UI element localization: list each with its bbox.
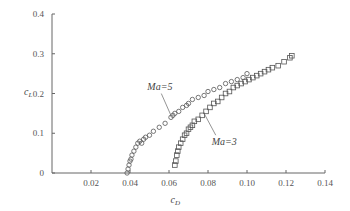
circle-marker	[190, 97, 194, 101]
y-tick-label: 0	[40, 168, 45, 178]
leader-line	[204, 113, 216, 135]
axes: 0.020.040.060.080.100.120.1400.10.20.30.…	[24, 9, 333, 207]
x-tick-label: 0.04	[122, 178, 138, 188]
circle-marker	[229, 79, 233, 83]
annotations: Ma=5Ma=3	[146, 81, 237, 148]
y-tick-label: 0.3	[33, 49, 45, 59]
y-tick-label: 0.2	[33, 89, 44, 99]
x-tick-label: 0.10	[239, 178, 255, 188]
circle-marker	[223, 81, 227, 85]
x-tick-label: 0.02	[83, 178, 99, 188]
circle-marker	[163, 121, 167, 125]
square-marker	[282, 59, 287, 64]
x-tick-label: 0.06	[161, 178, 177, 188]
annotation-ma5: Ma=5	[146, 81, 172, 92]
circle-marker	[206, 89, 210, 93]
x-tick-label: 0.08	[200, 178, 216, 188]
circle-marker	[212, 87, 216, 91]
circle-marker	[177, 109, 181, 113]
circle-marker	[147, 133, 151, 137]
y-tick-label: 0.1	[33, 128, 44, 138]
circle-marker	[202, 93, 206, 97]
scatter-chart: 0.020.040.060.080.100.120.1400.10.20.30.…	[0, 0, 350, 211]
circle-marker	[196, 95, 200, 99]
x-axis-label: cD	[171, 194, 181, 207]
x-tick-label: 0.12	[278, 178, 294, 188]
circle-marker	[157, 125, 161, 129]
circle-marker	[245, 71, 249, 75]
data-points	[125, 53, 294, 175]
annotation-ma3: Ma=3	[211, 136, 237, 147]
circle-marker	[151, 129, 155, 133]
y-tick-label: 0.4	[33, 9, 45, 19]
leader-line	[161, 94, 171, 116]
y-axis-label: cL	[24, 86, 32, 99]
circle-marker	[218, 85, 222, 89]
x-tick-label: 0.14	[317, 178, 333, 188]
square-marker	[276, 63, 281, 68]
